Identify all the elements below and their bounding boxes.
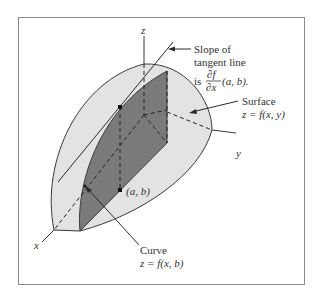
tangent-annotation-prefix: is — [194, 75, 201, 87]
fraction-denominator: ∂x — [206, 81, 216, 93]
x-axis-label: x — [33, 239, 39, 251]
surface-annotation-line1: Surface — [242, 95, 276, 107]
z-axis-label: z — [140, 24, 146, 36]
tangent-annotation-line1: Slope of — [194, 43, 231, 55]
curve-annotation-line2: z = f(x, b) — [139, 257, 184, 270]
point-label: (a, b) — [126, 185, 150, 198]
tangent-annotation-line2: tangent line — [194, 56, 246, 68]
partial-derivative-diagram: z y x Slope of tangent line is ∂f ∂x (a,… — [0, 0, 318, 300]
y-axis-label: y — [235, 147, 241, 159]
tangent-annotation-suffix: (a, b). — [222, 75, 249, 88]
surface-annotation-line2: z = f(x, y) — [241, 108, 285, 121]
point-a-b — [118, 188, 122, 192]
point-on-curve — [118, 105, 122, 109]
curve-annotation-line1: Curve — [140, 244, 167, 256]
